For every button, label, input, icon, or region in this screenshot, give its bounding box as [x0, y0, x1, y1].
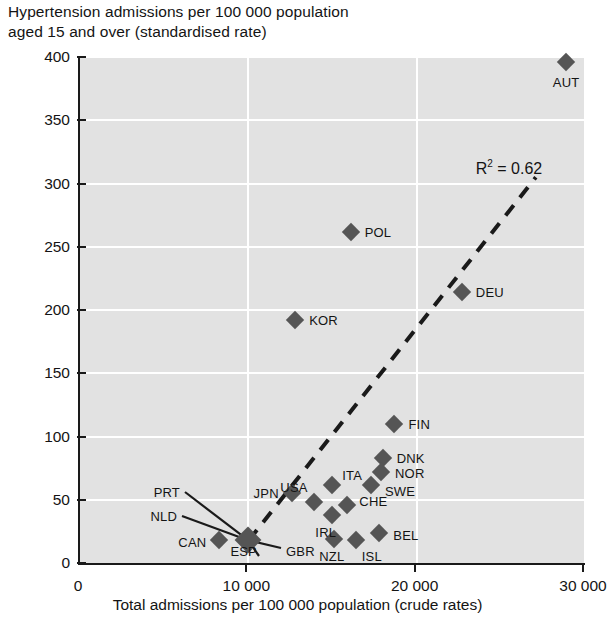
r-squared-annotation: R2 = 0.62 — [476, 159, 543, 178]
x-axis-tick — [582, 563, 584, 572]
y-axis-tick — [77, 183, 86, 185]
y-axis-tick — [77, 309, 86, 311]
y-axis-tick-label: 0 — [61, 554, 70, 572]
x-axis-tick-label: 20 000 — [391, 577, 438, 595]
data-point-label-can: CAN — [178, 535, 206, 550]
y-axis-tick — [77, 562, 86, 564]
data-point-label-isl: ISL — [362, 549, 382, 564]
gridline-vertical — [584, 57, 586, 563]
data-point-label-aut: AUT — [553, 75, 580, 90]
data-point-label-swe: SWE — [385, 483, 415, 498]
data-point-label-che: CHE — [359, 493, 387, 508]
y-axis-tick — [77, 372, 86, 374]
x-axis-title: Total admissions per 100 000 population … — [0, 596, 595, 614]
gridline-horizontal — [80, 56, 585, 58]
y-axis-tick — [77, 499, 86, 501]
y-axis-tick-label: 100 — [44, 428, 70, 446]
data-point-label-bel: BEL — [393, 527, 418, 542]
y-axis-tick-label: 150 — [44, 364, 70, 382]
y-axis-tick — [77, 56, 86, 58]
y-axis-tick — [77, 246, 86, 248]
chart-title: Hypertension admissions per 100 000 popu… — [8, 2, 349, 42]
data-point-label-irl: IRL — [315, 524, 336, 539]
y-axis-tick-label: 250 — [44, 238, 70, 256]
y-axis-tick-label: 300 — [44, 175, 70, 193]
data-point-label-fin: FIN — [408, 416, 430, 431]
data-point-label-usa: USA — [280, 480, 307, 495]
gridline-horizontal — [80, 183, 585, 185]
data-point-label-esp: ESP — [230, 544, 257, 559]
data-point-label-jpn: JPN — [254, 486, 279, 501]
data-point-label-deu: DEU — [476, 285, 504, 300]
y-axis-tick-label: 50 — [53, 491, 70, 509]
data-point-label-gbr: GBR — [286, 544, 315, 559]
y-axis-tick-label: 400 — [44, 48, 70, 66]
y-axis-tick — [77, 436, 86, 438]
y-axis-tick-label: 350 — [44, 111, 70, 129]
x-axis-tick — [414, 563, 416, 572]
data-point-label-dnk: DNK — [397, 451, 425, 466]
gridline-horizontal — [80, 372, 585, 374]
y-axis-tick — [77, 119, 86, 121]
gridline-vertical — [247, 57, 249, 563]
data-point-label-kor: KOR — [309, 313, 338, 328]
gridline-vertical — [416, 57, 418, 563]
y-axis-tick-label: 200 — [44, 301, 70, 319]
gridline-horizontal — [80, 246, 585, 248]
data-point-label-ita: ITA — [342, 467, 362, 482]
data-point-label-prt: PRT — [154, 485, 180, 500]
x-axis-tick-label: 30 000 — [559, 577, 606, 595]
x-axis-tick — [245, 563, 247, 572]
gridline-horizontal — [80, 309, 585, 311]
gridline-horizontal — [80, 436, 585, 438]
gridline-horizontal — [80, 119, 585, 121]
data-point-label-nzl: NZL — [319, 548, 344, 563]
data-point-label-nor: NOR — [395, 465, 425, 480]
data-point-label-pol: POL — [365, 224, 392, 239]
data-point-label-nld: NLD — [150, 509, 177, 524]
x-axis-tick-label: 0 — [74, 577, 83, 595]
x-axis-tick-label: 10 000 — [223, 577, 270, 595]
